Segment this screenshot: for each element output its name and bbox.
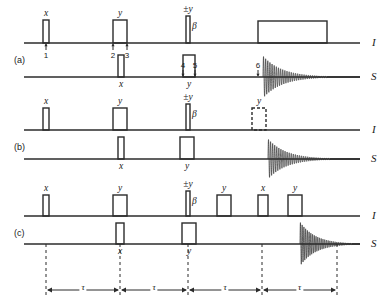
pulse-b-S-4[interactable] — [118, 137, 124, 159]
pulse-phase-label-c-I-4: x — [261, 183, 265, 193]
pulse-flip-angle-label-c-2: β — [192, 196, 197, 206]
pulse-phase-label-c-I-5: y — [293, 183, 297, 193]
channel-label-a-S: S — [371, 70, 377, 82]
pulse-phase-label-a-S-4: x — [119, 79, 123, 89]
pulse-c-I-2[interactable] — [186, 191, 190, 216]
pulse-sequence-figure: IS(a)xy±yβxy123456IS(b)xy±yβyxyIS(c)xy±y… — [0, 0, 392, 305]
pulse-flip-angle-label-a-2: β — [192, 21, 197, 31]
tau-label-1: τ — [150, 282, 157, 292]
marker-arrowhead-a-6 — [256, 74, 259, 77]
pulse-phase-label-b-I-1: y — [118, 96, 122, 106]
pulse-phase-label-b-S-4: x — [119, 161, 123, 171]
pulse-c-S-6[interactable] — [116, 223, 124, 244]
pulse-phase-label-c-I-0: x — [44, 183, 48, 193]
tau-arrowhead-right-2 — [256, 287, 261, 292]
marker-number-a-5: 5 — [193, 61, 197, 70]
pulse-a-I-2[interactable] — [186, 16, 190, 43]
panel-label-b: (b) — [14, 142, 25, 152]
tau-arrowhead-left-2 — [189, 287, 194, 292]
pulse-a-I-3[interactable] — [258, 21, 327, 43]
tau-arrowhead-left-0 — [47, 287, 52, 292]
pulse-a-I-0[interactable] — [43, 20, 49, 43]
marker-number-a-3: 3 — [125, 51, 129, 60]
marker-arrowhead-a-1 — [44, 44, 47, 47]
pulse-phase-label-c-S-7: y — [187, 246, 191, 256]
pulse-c-I-3[interactable] — [217, 195, 231, 216]
channel-label-c-S: S — [371, 237, 377, 249]
tau-label-0: τ — [79, 282, 86, 292]
pulse-phase-label-a-I-1: y — [118, 8, 122, 18]
fid-signal-b — [268, 140, 330, 178]
panel-label-c: (c) — [14, 228, 25, 238]
pulse-phase-label-b-I-0: x — [44, 96, 48, 106]
figure-canvas — [0, 0, 392, 305]
tau-label-2: τ — [221, 282, 228, 292]
marker-number-a-4: 4 — [181, 61, 185, 70]
pulse-phase-label-b-I-3: y — [257, 96, 261, 106]
pulse-phase-label-c-I-3: y — [222, 183, 226, 193]
pulse-c-S-7[interactable] — [182, 223, 196, 244]
pulse-b-I-3[interactable] — [252, 108, 266, 130]
pulse-b-I-1[interactable] — [113, 108, 127, 130]
pulse-phase-label-c-I-1: y — [118, 183, 122, 193]
tau-arrowhead-right-3 — [331, 287, 336, 292]
pulse-b-I-2[interactable] — [186, 104, 190, 130]
channel-label-b-S: S — [371, 152, 377, 164]
marker-arrowhead-a-3 — [125, 44, 128, 47]
pulse-b-S-5[interactable] — [180, 137, 194, 159]
pulse-c-I-0[interactable] — [43, 195, 49, 216]
marker-number-a-6: 6 — [256, 61, 260, 70]
pulse-phase-label-a-I-0: x — [44, 8, 48, 18]
tau-arrowhead-left-1 — [121, 287, 126, 292]
channel-label-c-I: I — [372, 209, 376, 221]
tau-arrowhead-left-3 — [263, 287, 268, 292]
fid-signal-c — [300, 223, 352, 265]
pulse-b-I-0[interactable] — [43, 108, 49, 130]
tau-label-3: τ — [296, 282, 303, 292]
pulse-phase-label-b-S-5: y — [185, 161, 189, 171]
pulse-flip-angle-label-b-2: β — [192, 109, 197, 119]
marker-arrowhead-a-4 — [181, 74, 184, 77]
tau-arrowhead-right-1 — [182, 287, 187, 292]
fid-signal-a — [263, 57, 327, 97]
pulse-phase-label-a-S-5: y — [187, 79, 191, 89]
marker-arrowhead-a-2 — [111, 44, 114, 47]
pulse-phase-label-c-S-6: x — [118, 246, 122, 256]
pulse-phase-label-a-I-2: ±y — [183, 4, 192, 14]
pulse-a-I-1[interactable] — [113, 20, 127, 43]
marker-arrowhead-a-5 — [193, 74, 196, 77]
tau-arrowhead-right-0 — [114, 287, 119, 292]
pulse-phase-label-b-I-2: ±y — [183, 92, 192, 102]
marker-number-a-2: 2 — [111, 51, 115, 60]
marker-number-a-1: 1 — [44, 51, 48, 60]
pulse-c-I-4[interactable] — [258, 195, 268, 216]
channel-label-b-I: I — [372, 123, 376, 135]
pulse-a-S-4[interactable] — [118, 55, 124, 77]
pulse-c-I-1[interactable] — [113, 195, 127, 216]
channel-label-a-I: I — [372, 36, 376, 48]
pulse-c-I-5[interactable] — [288, 195, 302, 216]
panel-label-a: (a) — [14, 55, 25, 65]
pulse-phase-label-c-I-2: ±y — [183, 179, 192, 189]
